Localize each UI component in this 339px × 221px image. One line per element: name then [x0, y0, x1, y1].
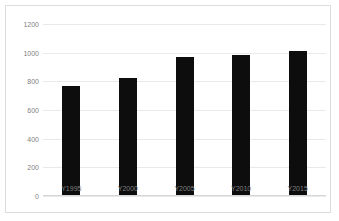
plot-area: 020040060080010001200 [43, 24, 326, 196]
y-axis-tick-label: 200 [5, 164, 39, 171]
x-axis-tick-label: Y2010 [231, 185, 251, 192]
bar [62, 86, 80, 196]
x-axis-tick-label: Y2005 [174, 185, 194, 192]
bar [232, 55, 250, 196]
bar [289, 51, 307, 196]
gridline [43, 196, 326, 197]
x-axis-baseline [43, 195, 326, 196]
y-axis-tick-label: 1200 [5, 21, 39, 28]
gridline [43, 24, 326, 25]
y-axis-tick-label: 1000 [5, 49, 39, 56]
bar [176, 57, 194, 196]
chart-frame: 020040060080010001200 Y1995Y2000Y2005Y20… [5, 5, 331, 213]
x-axis-tick-label: Y1995 [61, 185, 81, 192]
y-axis-tick-label: 400 [5, 135, 39, 142]
y-axis-tick-label: 600 [5, 107, 39, 114]
y-axis-tick-label: 800 [5, 78, 39, 85]
x-axis-tick-label: Y2015 [288, 185, 308, 192]
gridline [43, 53, 326, 54]
y-axis-tick-label: 0 [5, 193, 39, 200]
bar [119, 78, 137, 196]
x-axis-tick-label: Y2000 [118, 185, 138, 192]
